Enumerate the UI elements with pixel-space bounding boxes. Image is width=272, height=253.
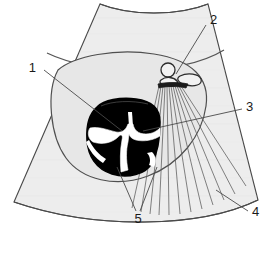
- label-1: 1: [29, 60, 36, 75]
- vertebral-body: [86, 98, 160, 176]
- label-5: 5: [134, 211, 141, 226]
- echo-circle: [161, 63, 175, 77]
- label-3: 3: [246, 99, 253, 114]
- figure-canvas: 1 2 3 4 5: [0, 0, 272, 253]
- label-2: 2: [210, 12, 217, 27]
- ultrasound-diagram: 1 2 3 4 5: [0, 0, 272, 253]
- label-4: 4: [252, 204, 259, 219]
